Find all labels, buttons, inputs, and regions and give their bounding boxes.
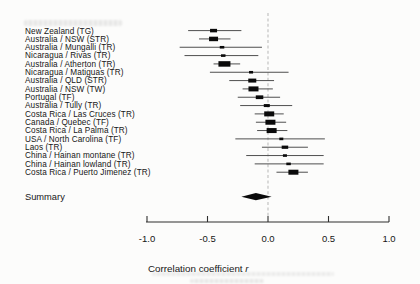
- point-estimate: [267, 128, 277, 133]
- point-estimate: [264, 111, 274, 116]
- point-estimate: [220, 46, 225, 49]
- point-estimate: [283, 154, 287, 157]
- point-estimate: [282, 146, 289, 149]
- summary-label: Summary: [25, 192, 65, 202]
- forest-plot-figure: New Zealand (TG)Australia / NSW (STR)Aus…: [0, 0, 420, 284]
- point-estimate: [218, 61, 230, 67]
- point-estimate: [221, 54, 226, 57]
- x-axis-tick-label: 1.0: [382, 233, 395, 244]
- forest-plot: New Zealand (TG)Australia / NSW (STR)Aus…: [0, 0, 420, 284]
- scan-artifact-caption: [190, 279, 264, 283]
- point-estimate: [209, 37, 218, 42]
- scan-artifact-top: [24, 20, 122, 26]
- point-estimate: [256, 95, 264, 99]
- point-estimate: [286, 163, 291, 166]
- point-estimate: [288, 170, 298, 175]
- summary-diamond: [241, 193, 271, 200]
- x-axis-tick-label: 0.0: [261, 233, 274, 244]
- point-estimate: [210, 29, 217, 32]
- study-label: Costa Rica / Puerto Jimenez (TR): [25, 168, 151, 177]
- point-estimate: [248, 79, 256, 83]
- point-estimate: [265, 120, 275, 125]
- point-estimate: [249, 71, 253, 74]
- point-estimate: [248, 86, 258, 91]
- x-axis-tick-label: -0.5: [199, 233, 215, 244]
- point-estimate: [279, 138, 283, 141]
- scan-artifact-bottom: [152, 272, 334, 276]
- point-estimate: [264, 104, 270, 107]
- x-axis-tick-label: -1.0: [139, 233, 155, 244]
- x-axis-tick-label: 0.5: [322, 233, 335, 244]
